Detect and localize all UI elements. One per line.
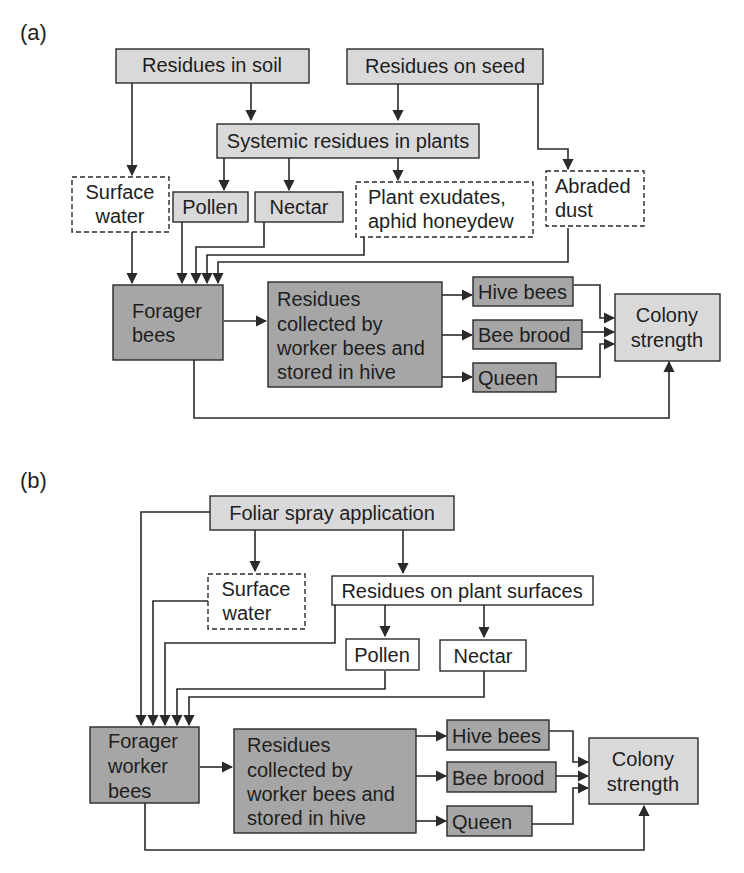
- node-colony-strength-b: Colony strength: [589, 738, 698, 804]
- svg-text:Bee brood: Bee brood: [452, 767, 544, 789]
- svg-text:dust: dust: [555, 199, 593, 221]
- svg-text:Queen: Queen: [478, 367, 538, 389]
- node-residues-plant-surfaces: Residues on plant surfaces: [332, 576, 593, 605]
- node-surface-water-b: Surface water: [208, 574, 305, 629]
- diagram-canvas: (a): [0, 0, 744, 873]
- svg-text:worker bees and: worker bees and: [276, 337, 425, 359]
- svg-text:stored in hive: stored in hive: [277, 361, 396, 383]
- svg-text:Colony: Colony: [612, 748, 674, 770]
- node-nectar: Nectar: [255, 192, 343, 222]
- node-residues-collected-b: Residues collected by worker bees and st…: [234, 729, 416, 833]
- panel-b-label: (b): [20, 468, 47, 493]
- svg-text:Residues on plant surfaces: Residues on plant surfaces: [341, 580, 582, 602]
- node-surface-water: Surface water: [72, 177, 169, 232]
- node-residues-in-soil: Residues in soil: [116, 49, 309, 83]
- svg-text:stored in hive: stored in hive: [247, 807, 366, 829]
- node-bee-brood: Bee brood: [473, 320, 582, 349]
- svg-text:Residues: Residues: [247, 734, 330, 756]
- node-queen-b: Queen: [447, 806, 532, 836]
- svg-text:Pollen: Pollen: [354, 644, 410, 666]
- svg-text:Residues: Residues: [277, 288, 360, 310]
- svg-text:water: water: [222, 602, 272, 624]
- panel-a-label: (a): [20, 20, 47, 45]
- svg-text:worker: worker: [107, 755, 168, 777]
- node-bee-brood-b: Bee brood: [447, 762, 556, 792]
- node-abraded-dust: Abraded dust: [546, 171, 644, 226]
- svg-text:Pollen: Pollen: [182, 196, 238, 218]
- node-pollen: Pollen: [173, 192, 248, 222]
- svg-text:aphid honeydew: aphid honeydew: [368, 210, 514, 232]
- svg-text:Residues in soil: Residues in soil: [142, 54, 282, 76]
- svg-text:Plant exudates,: Plant exudates,: [368, 186, 506, 208]
- svg-text:worker bees and: worker bees and: [246, 783, 395, 805]
- node-residues-on-seed: Residues on seed: [347, 49, 543, 84]
- node-colony-strength: Colony strength: [615, 294, 720, 361]
- svg-text:Bee brood: Bee brood: [478, 324, 570, 346]
- svg-text:Surface: Surface: [222, 578, 291, 600]
- svg-text:strength: strength: [607, 773, 679, 795]
- svg-text:bees: bees: [132, 324, 175, 346]
- svg-text:Hive bees: Hive bees: [452, 725, 541, 747]
- node-forager-bees: Forager bees: [113, 285, 223, 360]
- node-plant-exudates: Plant exudates, aphid honeydew: [356, 182, 533, 237]
- svg-text:Hive bees: Hive bees: [478, 281, 567, 303]
- svg-text:collected by: collected by: [277, 313, 383, 335]
- svg-text:water: water: [95, 205, 145, 227]
- svg-text:Queen: Queen: [452, 811, 512, 833]
- svg-text:strength: strength: [631, 329, 703, 351]
- svg-text:Surface: Surface: [86, 181, 155, 203]
- node-nectar-b: Nectar: [440, 640, 526, 671]
- node-residues-collected: Residues collected by worker bees and st…: [268, 282, 442, 387]
- svg-text:Abraded: Abraded: [555, 175, 631, 197]
- svg-text:Systemic residues in plants: Systemic residues in plants: [227, 130, 469, 152]
- svg-text:bees: bees: [108, 780, 151, 802]
- svg-text:Nectar: Nectar: [270, 196, 329, 218]
- svg-text:Forager: Forager: [108, 730, 178, 752]
- node-systemic-residues: Systemic residues in plants: [217, 124, 479, 158]
- svg-text:Forager: Forager: [132, 300, 202, 322]
- node-hive-bees: Hive bees: [473, 277, 573, 306]
- svg-text:collected by: collected by: [247, 759, 353, 781]
- node-hive-bees-b: Hive bees: [447, 720, 549, 750]
- svg-text:Colony: Colony: [636, 304, 698, 326]
- node-queen: Queen: [473, 363, 556, 392]
- svg-text:Foliar spray application: Foliar spray application: [229, 502, 435, 524]
- node-foliar-spray: Foliar spray application: [210, 496, 454, 530]
- node-forager-worker-bees: Forager worker bees: [90, 727, 199, 803]
- svg-text:Residues on seed: Residues on seed: [365, 55, 525, 77]
- node-pollen-b: Pollen: [346, 639, 419, 670]
- svg-text:Nectar: Nectar: [454, 645, 513, 667]
